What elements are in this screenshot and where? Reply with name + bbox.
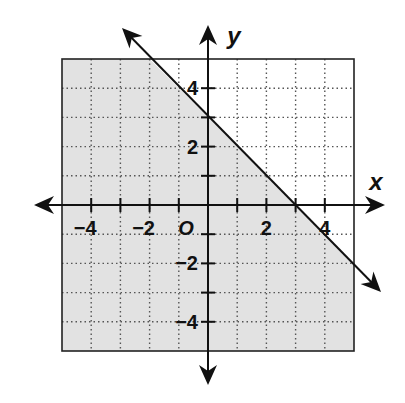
x-axis-label: x (367, 168, 384, 195)
x-tick-label: 2 (261, 217, 272, 239)
y-tick-label: −4 (175, 311, 199, 333)
coordinate-plane: −4−22442−2−4Oxy (0, 0, 405, 403)
x-tick-label: −2 (132, 217, 155, 239)
y-axis-label: y (226, 22, 242, 49)
origin-label: O (178, 217, 194, 239)
y-tick-label: 2 (187, 136, 198, 158)
x-tick-label: 4 (319, 217, 331, 239)
x-tick-label: −4 (74, 217, 98, 239)
y-tick-label: −2 (175, 252, 198, 274)
y-tick-label: 4 (187, 77, 199, 99)
